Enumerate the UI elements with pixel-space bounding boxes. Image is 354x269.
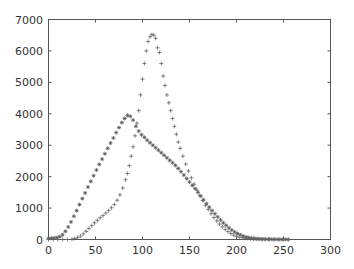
plus-marker <box>206 208 210 212</box>
plus-marker <box>174 132 178 136</box>
plus-marker <box>171 117 175 121</box>
plus-marker <box>87 227 91 231</box>
plus-marker <box>139 93 143 97</box>
y-tick-label: 1000 <box>15 202 43 215</box>
star-marker <box>69 220 73 224</box>
plus-marker <box>112 203 116 207</box>
star-marker <box>210 209 214 213</box>
y-tick-label: 3000 <box>15 139 43 152</box>
plus-marker <box>172 124 176 128</box>
y-tick-label: 7000 <box>15 14 43 27</box>
y-tick-label: 0 <box>36 234 43 247</box>
plus-marker <box>157 51 161 55</box>
plus-marker <box>115 198 119 202</box>
star-marker <box>66 225 70 229</box>
star-marker <box>103 152 107 156</box>
x-tick-label: 50 <box>89 244 103 257</box>
plus-marker <box>84 229 88 233</box>
plus-marker <box>223 227 227 231</box>
plus-marker <box>107 209 111 213</box>
star-marker <box>83 191 87 195</box>
plus-marker <box>141 77 145 81</box>
scatter-chart: 050100150200250300 010002000300040005000… <box>0 0 354 269</box>
series-plus <box>47 33 291 242</box>
plus-marker <box>70 237 74 241</box>
plus-marker <box>131 145 135 149</box>
star-marker <box>230 228 234 232</box>
star-marker <box>63 229 67 233</box>
plus-marker <box>137 109 141 113</box>
star-marker <box>227 226 231 230</box>
plus-marker <box>267 237 271 241</box>
plus-marker <box>142 62 146 66</box>
star-marker <box>213 212 217 216</box>
star-marker <box>182 173 186 177</box>
plus-marker <box>81 232 85 236</box>
star-marker <box>137 129 141 133</box>
plus-marker <box>212 216 216 220</box>
plus-marker <box>144 49 148 53</box>
plus-marker <box>90 224 94 228</box>
x-tick-label: 100 <box>132 244 153 257</box>
plot-frame <box>49 20 331 240</box>
plus-marker <box>133 134 137 138</box>
star-marker <box>106 146 110 150</box>
star-marker <box>111 136 115 140</box>
star-marker <box>207 205 211 209</box>
x-tick-label: 300 <box>320 244 341 257</box>
x-tick-label: 0 <box>45 244 52 257</box>
series-star <box>47 113 291 241</box>
star-marker <box>114 131 118 135</box>
plus-marker <box>98 216 102 220</box>
star-marker <box>109 141 113 145</box>
plus-marker <box>184 162 188 166</box>
star-marker <box>179 170 183 174</box>
star-marker <box>219 218 223 222</box>
star-marker <box>120 121 124 125</box>
star-marker <box>176 166 180 170</box>
star-marker <box>128 114 132 118</box>
star-marker <box>117 126 121 130</box>
plus-marker <box>176 140 180 144</box>
plus-marker <box>95 218 99 222</box>
star-marker <box>86 185 90 189</box>
x-axis: 050100150200250300 <box>45 20 341 258</box>
star-marker <box>196 190 200 194</box>
star-marker <box>92 174 96 178</box>
plus-marker <box>209 212 213 216</box>
star-marker <box>58 235 62 239</box>
plus-marker <box>146 40 150 44</box>
plus-marker <box>135 121 139 125</box>
plus-marker <box>93 221 97 225</box>
star-marker <box>72 214 76 218</box>
x-tick-label: 250 <box>273 244 294 257</box>
star-marker <box>89 179 93 183</box>
plus-marker <box>104 211 108 215</box>
plus-marker <box>61 238 65 242</box>
star-marker <box>61 233 65 237</box>
plus-marker <box>167 101 171 105</box>
plus-marker <box>178 146 182 150</box>
star-marker <box>75 209 79 213</box>
star-marker <box>80 197 84 201</box>
plus-marker <box>148 35 152 39</box>
plus-marker <box>161 74 165 78</box>
plus-marker <box>163 84 167 88</box>
star-marker <box>202 198 206 202</box>
y-axis: 01000200030004000500060007000 <box>15 14 331 247</box>
plus-marker <box>159 62 163 66</box>
star-marker <box>173 163 177 167</box>
x-tick-label: 200 <box>226 244 247 257</box>
plus-marker <box>218 222 222 226</box>
plus-marker <box>181 154 185 158</box>
star-marker <box>123 117 127 121</box>
plus-marker <box>277 238 281 242</box>
plus-marker <box>282 238 286 242</box>
x-tick-label: 150 <box>179 244 200 257</box>
star-marker <box>185 177 189 181</box>
star-marker <box>131 118 135 122</box>
star-marker <box>134 124 138 128</box>
y-tick-label: 2000 <box>15 171 43 184</box>
star-marker <box>78 203 82 207</box>
plus-marker <box>226 230 230 234</box>
